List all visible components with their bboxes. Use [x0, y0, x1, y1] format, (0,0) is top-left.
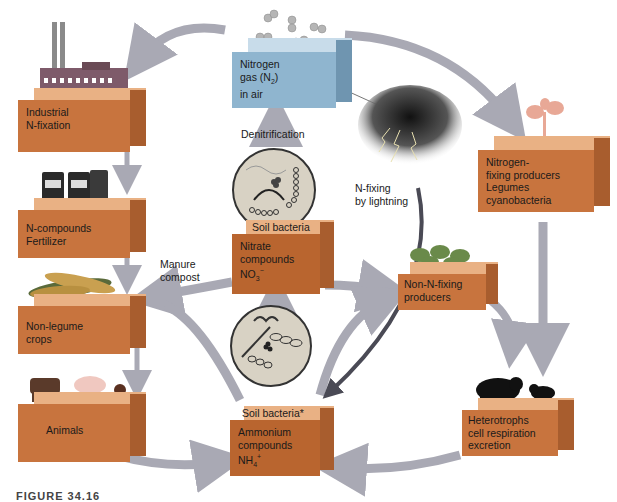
box-top — [410, 262, 498, 274]
label-line: in air — [240, 88, 328, 101]
label-line: crops — [26, 333, 122, 346]
label-line: Ammonium — [238, 426, 312, 439]
box-front: Industrial N-fixation — [18, 100, 130, 152]
box-front: Nitrogen gas (N2) in air — [232, 52, 336, 108]
box-side — [486, 264, 498, 304]
box-top — [494, 136, 610, 150]
label-manure-compost: Manure compost — [160, 258, 200, 283]
box-side — [130, 296, 146, 348]
label-denitrification: Denitrification — [241, 128, 305, 141]
storm-cloud-icon — [358, 85, 462, 165]
label-line: producers — [404, 291, 480, 304]
node-animals: Animals — [18, 392, 146, 462]
subscript: 3 — [256, 275, 260, 282]
label-line: NO3− — [240, 265, 312, 285]
label-line: Nitrogen — [240, 58, 328, 71]
label-line: gas (N2) — [240, 71, 328, 89]
label-line: Fertilizer — [26, 235, 122, 248]
node-industrial-nfixation: Industrial N-fixation — [18, 88, 146, 152]
node-nitrogen-gas: Nitrogen gas (N2) in air — [232, 38, 352, 108]
node-fertilizer: N-compounds Fertilizer — [18, 198, 146, 258]
box-side — [336, 40, 352, 102]
bacteria-icon — [234, 150, 314, 230]
superscript: − — [260, 267, 264, 274]
label-soil-bacteria: Soil bacteria — [252, 221, 310, 234]
superscript: + — [257, 453, 261, 460]
label-lightning-fixation: N-fixing by lightning — [355, 182, 408, 207]
box-side — [130, 90, 146, 146]
box-front: Ammonium compounds NH4+ — [230, 420, 320, 476]
label-line: Industrial — [26, 106, 122, 119]
node-nitrate-compounds: Soil bacteria Nitrate compounds NO3− — [232, 220, 334, 294]
subscript: 4 — [253, 461, 257, 468]
label-line: Heterotrophs — [468, 414, 552, 427]
soil-bacteria-illustration — [230, 305, 312, 387]
box-front: Non-N-fixing producers — [398, 274, 486, 310]
bacteria-icon — [232, 307, 310, 385]
box-front: N-compounds Fertilizer — [18, 210, 130, 258]
label-text: gas (N — [240, 71, 271, 83]
label-line: Non-legume — [26, 320, 122, 333]
label-line: fixing producers — [486, 169, 586, 182]
label-line: NH4+ — [238, 451, 312, 471]
label-text: NH — [238, 454, 253, 466]
node-heterotrophs: Heterotrophs cell respiration excretion — [462, 398, 574, 456]
label-line: Nitrate — [240, 240, 312, 253]
label-line: Nitrogen- — [486, 156, 586, 169]
figure-caption: FIGURE 34.16 — [16, 490, 100, 502]
box-front: Animals — [18, 404, 130, 462]
box-side — [130, 200, 146, 252]
label-line: Non-N-fixing — [404, 278, 480, 291]
label-line: excretion — [468, 439, 552, 452]
factory-icon — [40, 22, 128, 92]
sprout-icon — [526, 98, 564, 137]
label-line: compounds — [238, 439, 312, 452]
box-front: Nitrogen- fixing producers Legumes cyano… — [478, 150, 594, 212]
box-side — [130, 394, 146, 456]
node-nitrogen-fixing-producers: Nitrogen- fixing producers Legumes cyano… — [478, 136, 610, 212]
label-text: ) — [275, 71, 279, 83]
node-non-legume-crops: Non-legume crops — [18, 294, 146, 354]
node-non-n-fixing-producers: Non-N-fixing producers — [398, 262, 498, 310]
node-ammonium-compounds: Soil bacteria* Ammonium compounds NH4+ — [230, 406, 334, 476]
label-line: compounds — [240, 253, 312, 266]
box-side — [320, 408, 334, 470]
box-front: Nitrate compounds NO3− — [232, 234, 320, 294]
box-side — [594, 138, 610, 206]
label-line: cyanobacteria — [486, 194, 586, 207]
label-line: cell respiration — [468, 427, 552, 440]
box-front: Heterotrophs cell respiration excretion — [462, 410, 558, 456]
label-line: Animals — [46, 424, 130, 437]
label-soil-bacteria-ammonium: Soil bacteria* — [242, 407, 304, 420]
box-front: Non-legume crops — [18, 306, 130, 354]
label-line: N-fixation — [26, 119, 122, 132]
label-line: N-compounds — [26, 222, 122, 235]
box-side — [320, 222, 334, 288]
label-line: Legumes — [486, 181, 586, 194]
box-side — [558, 400, 574, 450]
label-text: NO — [240, 268, 256, 280]
